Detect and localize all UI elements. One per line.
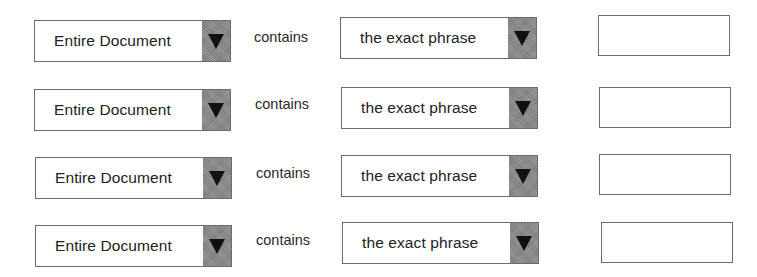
dropdown-arrow-icon xyxy=(208,237,226,255)
match-select-value: the exact phrase xyxy=(361,156,507,196)
match-select-value: the exact phrase xyxy=(362,223,508,263)
match-select-row-1[interactable]: the exact phrase xyxy=(340,17,537,59)
scope-select-row-1[interactable]: Entire Document xyxy=(34,20,231,62)
scope-select-value: Entire Document xyxy=(55,158,201,198)
scope-select-row-2[interactable]: Entire Document xyxy=(34,89,231,131)
scope-select-row-3[interactable]: Entire Document xyxy=(35,157,232,199)
search-term-input-row-3[interactable] xyxy=(599,154,731,195)
scope-select-value: Entire Document xyxy=(54,90,200,130)
dropdown-button[interactable] xyxy=(202,21,230,61)
dropdown-button[interactable] xyxy=(202,90,230,130)
dropdown-arrow-icon xyxy=(514,167,532,185)
match-select-row-2[interactable]: the exact phrase xyxy=(341,87,538,129)
dropdown-button[interactable] xyxy=(508,18,536,58)
operator-label-row-2: contains xyxy=(255,96,309,112)
search-term-input-row-1[interactable] xyxy=(598,15,730,56)
search-term-input-row-4[interactable] xyxy=(601,222,733,263)
scope-select-value: Entire Document xyxy=(55,226,201,266)
scope-select-value: Entire Document xyxy=(54,21,200,61)
dropdown-button[interactable] xyxy=(203,226,231,266)
dropdown-arrow-icon xyxy=(513,29,531,47)
match-select-value: the exact phrase xyxy=(360,18,506,58)
match-select-value: the exact phrase xyxy=(361,88,507,128)
dropdown-arrow-icon xyxy=(515,234,533,252)
dropdown-arrow-icon xyxy=(514,99,532,117)
scope-select-row-4[interactable]: Entire Document xyxy=(35,225,232,267)
search-term-input-row-2[interactable] xyxy=(599,87,731,128)
operator-label-row-1: contains xyxy=(254,29,308,45)
match-select-row-3[interactable]: the exact phrase xyxy=(341,155,538,197)
operator-label-row-4: contains xyxy=(256,232,310,248)
match-select-row-4[interactable]: the exact phrase xyxy=(342,222,539,264)
dropdown-button[interactable] xyxy=(203,158,231,198)
dropdown-arrow-icon xyxy=(208,169,226,187)
dropdown-button[interactable] xyxy=(509,88,537,128)
dropdown-arrow-icon xyxy=(207,101,225,119)
operator-label-row-3: contains xyxy=(256,165,310,181)
dropdown-button[interactable] xyxy=(510,223,538,263)
dropdown-arrow-icon xyxy=(207,32,225,50)
dropdown-button[interactable] xyxy=(509,156,537,196)
